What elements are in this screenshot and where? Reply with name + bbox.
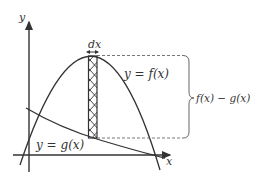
f-curve-label: y = f(x) bbox=[123, 67, 169, 81]
dx-label: dx bbox=[88, 38, 102, 51]
brace-icon bbox=[183, 56, 194, 139]
g-curve-label: y = g(x) bbox=[35, 138, 85, 152]
x-axis-label: x bbox=[166, 155, 173, 168]
hatched-strip bbox=[89, 56, 98, 138]
y-axis-label: y bbox=[18, 11, 26, 24]
brace-label: f(x) − g(x) bbox=[195, 92, 250, 104]
area-between-curves-diagram: y x dx y = f(x) y = g(x) f(x) − g(x) bbox=[0, 0, 258, 176]
